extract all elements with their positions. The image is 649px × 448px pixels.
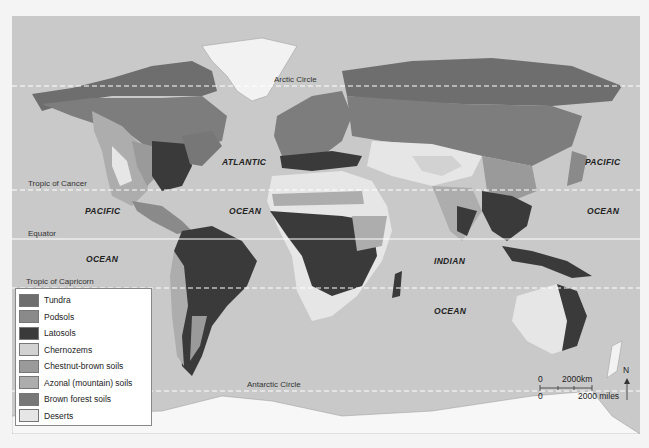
scale-mi-label: 2000 miles: [578, 391, 619, 401]
legend-label: Podsols: [44, 312, 74, 322]
legend-item-podsols: Podsols: [19, 309, 148, 326]
swatch-chestnut-brown: [19, 360, 39, 373]
legend-label: Deserts: [44, 411, 73, 421]
north-arrow-icon: [624, 378, 630, 384]
scale-bar: 0 2000km N 0 2000 miles: [524, 374, 634, 414]
equator-label: Equator: [28, 229, 56, 238]
swatch-latosols: [19, 327, 39, 340]
legend-item-deserts: Deserts: [19, 408, 148, 425]
tropic-of-cancer-label: Tropic of Cancer: [28, 179, 87, 188]
swatch-brown-forest: [19, 393, 39, 406]
arctic-circle-label: Arctic Circle: [274, 75, 317, 84]
legend-label: Latosols: [44, 328, 76, 338]
antarctic-circle-label: Antarctic Circle: [247, 380, 301, 389]
legend-item-azonal: Azonal (mountain) soils: [19, 375, 148, 392]
swatch-deserts: [19, 409, 39, 422]
legend-label: Chernozems: [44, 345, 92, 355]
scale-mi-zero: 0: [538, 391, 543, 401]
legend-item-latosols: Latosols: [19, 325, 148, 342]
legend-item-chestnut-brown: Chestnut-brown soils: [19, 358, 148, 375]
swatch-azonal: [19, 376, 39, 389]
indian-ocean-label-1: INDIAN: [434, 256, 465, 266]
legend-item-chernozems: Chernozems: [19, 342, 148, 359]
legend-label: Chestnut-brown soils: [44, 361, 123, 371]
swatch-chernozems: [19, 343, 39, 356]
legend-label: Tundra: [44, 295, 71, 305]
legend-item-tundra: Tundra: [19, 292, 148, 309]
legend: Tundra Podsols Latosols Chernozems Chest…: [15, 288, 152, 426]
indian-ocean-label-2: OCEAN: [434, 306, 466, 316]
swatch-podsols: [19, 310, 39, 323]
pacific-east-label-1: PACIFIC: [585, 157, 620, 167]
north-label: N: [623, 365, 629, 375]
swatch-tundra: [19, 294, 39, 307]
atlantic-ocean-label-1: ATLANTIC: [222, 157, 266, 167]
legend-label: Azonal (mountain) soils: [44, 378, 132, 388]
pacific-west-label-1: PACIFIC: [85, 206, 120, 216]
legend-label: Brown forest soils: [44, 394, 111, 404]
world-soil-map: Arctic Circle Tropic of Cancer Equator T…: [12, 16, 640, 434]
pacific-west-label-2: OCEAN: [86, 254, 118, 264]
tropic-of-capricorn-label: Tropic of Capricorn: [26, 277, 94, 286]
atlantic-ocean-label-2: OCEAN: [229, 206, 261, 216]
legend-item-brown-forest: Brown forest soils: [19, 391, 148, 408]
pacific-east-label-2: OCEAN: [587, 206, 619, 216]
